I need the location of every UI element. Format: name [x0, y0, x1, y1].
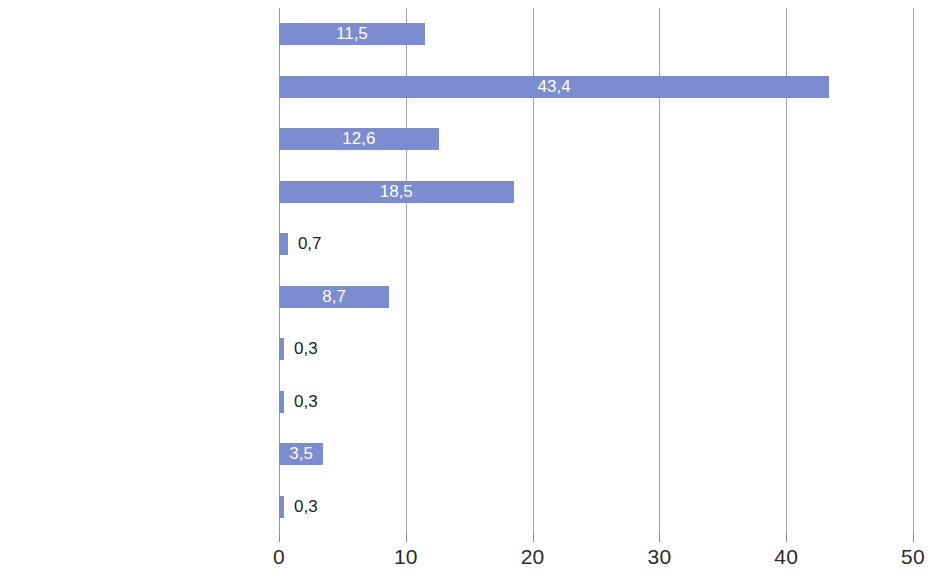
bar-value-label: 18,5 — [279, 181, 514, 203]
x-tick-label: 50 — [883, 545, 932, 569]
x-tick-label: 0 — [249, 545, 309, 569]
x-tick-label: 40 — [756, 545, 816, 569]
bar-row: 2 Monate vorher12,6 — [0, 113, 932, 166]
bar-row: 15 Monate vorher0,3 — [0, 481, 932, 534]
bar-row: 6 Monate vorher8,7 — [0, 271, 932, 324]
tick-mark-30 — [659, 533, 660, 542]
bar-value-label: 0,3 — [294, 338, 318, 360]
bar-row: 9 Monate vorher0,3 — [0, 323, 932, 376]
bar-row: 10 Monate vorher0,3 — [0, 376, 932, 429]
bar-row: 12 Monate vorher3,5 — [0, 428, 932, 481]
bar-value-label: 11,5 — [279, 23, 425, 45]
bar-value-label: 0,3 — [294, 496, 318, 518]
bar — [279, 338, 284, 360]
bar-value-label: 43,4 — [279, 76, 829, 98]
bar-row: 5 Monate vorher0,7 — [0, 218, 932, 271]
x-tick-label: 20 — [503, 545, 563, 569]
bar — [279, 391, 284, 413]
bar-value-label: 0,7 — [298, 233, 322, 255]
bar-row: 1 Monat vorher43,4 — [0, 61, 932, 114]
tick-mark-20 — [533, 533, 534, 542]
bar — [279, 496, 284, 518]
tick-mark-0 — [279, 533, 280, 542]
tick-mark-50 — [913, 533, 914, 542]
bar — [279, 233, 288, 255]
tick-mark-40 — [786, 533, 787, 542]
x-tick-label: 30 — [629, 545, 689, 569]
bar-value-label: 0,3 — [294, 391, 318, 413]
bar-value-label: 3,5 — [279, 443, 323, 465]
x-tick-label: 10 — [376, 545, 436, 569]
bar-row: Unter einem Monat vorher11,5 — [0, 8, 932, 61]
bar-value-label: 12,6 — [279, 128, 439, 150]
bar-value-label: 8,7 — [279, 286, 389, 308]
tick-mark-10 — [406, 533, 407, 542]
bar-row: 3 Monate vorher18,5 — [0, 166, 932, 219]
bar-chart: 01020304050 Unter einem Monat vorher11,5… — [0, 0, 932, 581]
